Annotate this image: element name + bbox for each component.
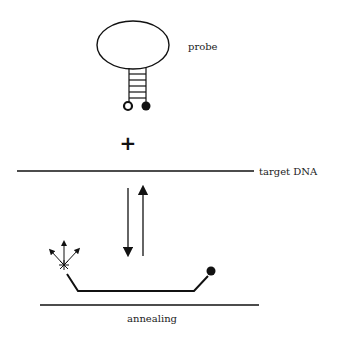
quencher-icon bbox=[142, 102, 151, 111]
probe-label: probe bbox=[188, 41, 218, 52]
annealing-label: annealing bbox=[127, 313, 178, 324]
plus-sign: + bbox=[120, 131, 137, 155]
target-dna-label: target DNA bbox=[259, 166, 318, 177]
hairpin-probe-diagram: probe + target DNA annealing bbox=[0, 0, 337, 340]
probe-stem bbox=[129, 68, 146, 104]
annealed-probe bbox=[67, 274, 208, 291]
fluorophore-icon bbox=[124, 102, 132, 110]
fluorescence-emission-icon bbox=[51, 243, 78, 270]
quencher-annealed-icon bbox=[207, 267, 216, 276]
probe-loop bbox=[97, 21, 169, 69]
